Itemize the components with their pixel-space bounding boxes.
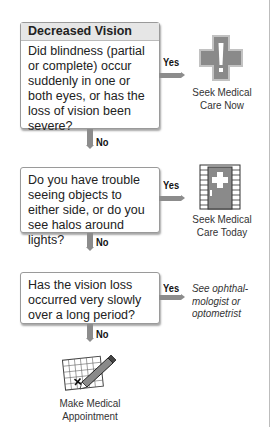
question-text-3: Has the vision loss occurred very slowly… <box>21 273 159 328</box>
no-arrow-2 <box>87 233 93 247</box>
page-edge-rule <box>269 0 270 427</box>
no-arrow-3 <box>87 324 93 338</box>
question-box-3: Has the vision loss occurred very slowly… <box>20 272 160 324</box>
outcome-care-now: Seek Medical Care Now <box>188 86 256 111</box>
outcome-make-appointment: Make Medical Appointment <box>56 397 124 422</box>
yes-label-3: Yes <box>163 282 179 294</box>
outcome-see-specialist: See ophthal- mologist or optometrist <box>192 282 262 320</box>
outcome-text: Care Today <box>188 226 256 239</box>
question-box-1: Decreased Vision Did blindness (partial … <box>20 22 160 129</box>
outcome-text: Care Now <box>188 99 256 112</box>
outcome-text: Seek Medical <box>188 86 256 99</box>
yes-label-1: Yes <box>163 56 179 68</box>
yes-arrow-3 <box>159 295 181 300</box>
yes-arrow-2 <box>159 196 181 201</box>
outcome-text: Seek Medical <box>188 213 256 226</box>
outcome-text: Make Medical <box>56 397 124 410</box>
outcome-text: optometrist <box>192 307 262 320</box>
yes-label-2: Yes <box>163 179 179 191</box>
medical-cross-icon <box>199 35 243 81</box>
question-text-1: Did blindness (partial or complete) occu… <box>21 41 159 139</box>
outcome-text: Appointment <box>56 410 124 423</box>
flowchart-title: Decreased Vision <box>21 23 159 41</box>
calendar-pencil-icon <box>60 350 120 394</box>
outcome-care-today: Seek Medical Care Today <box>188 213 256 238</box>
no-label-3: No <box>96 328 108 340</box>
outcome-text: mologist or <box>192 295 262 308</box>
no-arrow-1 <box>87 129 93 145</box>
yes-arrow-1 <box>159 73 181 78</box>
no-label-2: No <box>96 236 108 248</box>
clinic-door-icon <box>199 164 241 210</box>
no-label-1: No <box>96 136 108 148</box>
question-box-2: Do you have trouble seeing objects to ei… <box>20 167 160 233</box>
outcome-text: See ophthal- <box>192 282 262 295</box>
